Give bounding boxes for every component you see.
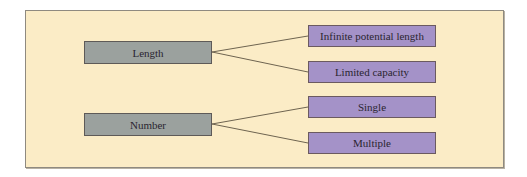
- connectors: [0, 0, 527, 177]
- leaf-node-single: Single: [308, 96, 436, 118]
- connector-length-limited: [212, 52, 308, 72]
- connector-length-infinite: [212, 36, 308, 52]
- leaf-label: Limited capacity: [335, 66, 409, 78]
- category-label: Number: [130, 119, 166, 131]
- leaf-node-multiple: Multiple: [308, 132, 436, 154]
- connector-number-single: [212, 107, 308, 124]
- leaf-label: Single: [358, 101, 386, 113]
- leaf-node-infinite-potential-length: Infinite potential length: [308, 25, 436, 47]
- leaf-label: Multiple: [353, 137, 391, 149]
- category-node-length: Length: [84, 41, 212, 64]
- leaf-node-limited-capacity: Limited capacity: [308, 61, 436, 83]
- connector-number-multiple: [212, 124, 308, 143]
- leaf-label: Infinite potential length: [320, 30, 424, 42]
- category-node-number: Number: [84, 113, 212, 136]
- category-label: Length: [132, 47, 163, 59]
